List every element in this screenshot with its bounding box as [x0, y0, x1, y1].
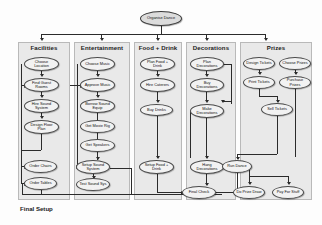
- node-print-tickets[interactable]: Print Tickets: [243, 76, 275, 89]
- flowchart-canvas: Facilities Entertainment Food + Drink De…: [0, 0, 322, 225]
- node-label: Order Chairs: [29, 164, 51, 168]
- node-run-dance[interactable]: Run Dance: [222, 160, 252, 173]
- arrow-rooms-to-hire: [40, 95, 44, 98]
- arrow-bus-entertainment: [100, 38, 104, 41]
- lane-title-entertainment: Entertainment: [74, 44, 130, 51]
- edge-ent-rail: [77, 64, 78, 166]
- node-label: Setup Sound System: [79, 163, 107, 172]
- node-setup-food-drink[interactable]: Setup Food + Drink: [139, 160, 174, 174]
- edge-sell-to-run: [237, 154, 277, 155]
- arrow-music-to-approve: [96, 74, 100, 77]
- node-choose-location[interactable]: Choose Location: [24, 57, 59, 71]
- node-label: Do Prize Draw: [236, 190, 261, 194]
- edge-run-fanout: [249, 176, 288, 177]
- edge-root-down: [161, 26, 162, 34]
- edge-setupfood-to-check: [157, 174, 158, 192]
- edge-prizes-merge: [259, 96, 277, 97]
- arrow-choose-to-purchase: [294, 72, 298, 75]
- node-label: Hire Sound System: [27, 102, 56, 111]
- arrow-planfood-to-caterers: [156, 74, 160, 77]
- node-label: Hire Caterers: [146, 83, 169, 87]
- arrow-design-to-print: [258, 72, 262, 75]
- node-purchase-prizes[interactable]: Purchase Prizes: [279, 76, 311, 89]
- node-choose-music[interactable]: Choose Music: [80, 57, 115, 71]
- lane-title-prizes: Prizes: [240, 44, 312, 51]
- arrow-to-hangdec: [205, 156, 209, 159]
- arrow-approve-to-borrow: [96, 95, 100, 98]
- node-organise-dance[interactable]: Organise Dance: [140, 11, 182, 26]
- node-label: Make Decorations: [193, 107, 221, 116]
- arrow-dec-rail-make: [221, 100, 225, 103]
- lane-title-decorations: Decorations: [186, 44, 236, 51]
- edge-floorplan-left: [21, 150, 41, 151]
- arrow-hire-to-floorplan: [40, 116, 44, 119]
- node-label: Get Movie Rig: [85, 124, 110, 128]
- node-test-sound-sys[interactable]: Test Sound Sys: [76, 178, 110, 191]
- node-plan-decorations[interactable]: Plan Decorations: [190, 57, 224, 71]
- node-borrow-sound-equip[interactable]: Borrow Sound Equip: [80, 99, 115, 113]
- node-setup-sound-system[interactable]: Setup Sound System: [76, 160, 110, 174]
- node-design-tickets[interactable]: Design Tickets: [243, 57, 275, 70]
- node-label: Borrow Sound Equip: [83, 102, 112, 111]
- edge-test-exit-h: [110, 168, 131, 169]
- node-label: Design Floor Plan: [27, 123, 56, 132]
- node-label: Design Tickets: [246, 61, 271, 65]
- edge-to-hangdec: [206, 118, 207, 158]
- lane-title-facilities: Facilities: [18, 44, 70, 51]
- edge-facilities-rail: [21, 64, 22, 167]
- node-pay-for-stuff[interactable]: Pay For Stuff: [272, 186, 304, 199]
- arrow-bus-decorations: [205, 38, 209, 41]
- node-label: Organise Dance: [147, 16, 175, 20]
- arrow-plandec-to-buydec: [205, 74, 209, 77]
- edge-setup-bus-left: [22, 183, 23, 194]
- arrow-buydec-to-makedec: [205, 100, 209, 103]
- node-get-movie-rig[interactable]: Get Movie Rig: [80, 120, 115, 133]
- node-label: Get Speakers: [86, 143, 110, 147]
- node-label: Find Guest Rooms: [27, 81, 56, 90]
- node-make-decorations[interactable]: Make Decorations: [190, 104, 224, 118]
- node-plan-food-drink[interactable]: Plan Food + Drink: [140, 57, 175, 71]
- node-choose-prizes[interactable]: Choose Prizes: [279, 57, 311, 70]
- node-label: Plan Decorations: [193, 60, 221, 69]
- node-find-guest-rooms[interactable]: Find Guest Rooms: [24, 78, 59, 92]
- node-label: Buy Drinks: [147, 108, 166, 112]
- edge-drinks-to-setupfood: [157, 116, 158, 158]
- final-setup-label: Final Setup: [20, 205, 53, 212]
- node-approve-music[interactable]: Approve Music: [80, 78, 115, 92]
- edge-makedec-down: [190, 111, 191, 158]
- node-hire-sound-system[interactable]: Hire Sound System: [24, 99, 59, 113]
- node-label: Choose Music: [85, 62, 110, 66]
- node-label: Approve Music: [85, 83, 111, 87]
- node-hang-decorations[interactable]: Hang Decorations: [190, 160, 224, 174]
- lane-title-food-drink: Food + Drink: [134, 44, 182, 51]
- node-design-floor-plan[interactable]: Design Floor Plan: [24, 120, 59, 134]
- node-sell-tickets[interactable]: Sell Tickets: [261, 103, 293, 116]
- node-label: Final Check: [189, 190, 210, 194]
- node-get-speakers[interactable]: Get Speakers: [80, 139, 115, 152]
- node-order-tables[interactable]: Order Tables: [24, 177, 57, 190]
- arrow-fanout-pay: [287, 182, 291, 185]
- node-buy-decorations[interactable]: Buy Decorations: [190, 78, 224, 92]
- node-label: Sell Tickets: [267, 107, 287, 111]
- node-final-check[interactable]: Final Check: [182, 186, 216, 199]
- edge-dec-rail: [231, 64, 232, 104]
- node-label: Test Sound Sys: [79, 182, 106, 186]
- edge-sell-down: [277, 116, 278, 154]
- node-label: Pay For Stuff: [277, 190, 300, 194]
- arrow-caterers-to-drinks: [156, 100, 160, 103]
- edge-floorplan-down: [41, 134, 42, 150]
- arrow-location-to-rooms: [40, 74, 44, 77]
- node-label: Run Dance: [227, 164, 246, 168]
- node-buy-drinks[interactable]: Buy Drinks: [140, 104, 173, 116]
- edge-test-exit: [131, 168, 132, 194]
- node-label: Plan Food + Drink: [143, 60, 172, 69]
- node-hire-caterers[interactable]: Hire Caterers: [140, 78, 175, 92]
- arrow-bus-food: [156, 38, 160, 41]
- node-label: Setup Food + Drink: [142, 163, 171, 172]
- arrow-bus-prizes: [264, 38, 268, 41]
- arrow-fanout-prizedraw: [248, 182, 252, 185]
- node-order-chairs[interactable]: Order Chairs: [24, 160, 57, 173]
- edge-purchase-down: [295, 89, 296, 157]
- node-do-prize-draw[interactable]: Do Prize Draw: [233, 186, 265, 199]
- node-label: Hang Decorations: [193, 163, 221, 172]
